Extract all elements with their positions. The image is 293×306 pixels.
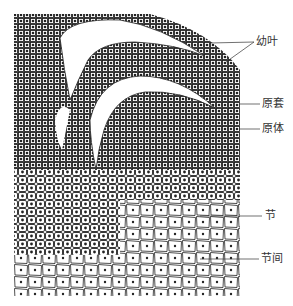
label-node: 节 — [265, 210, 276, 222]
label-young-leaf: 幼叶 — [256, 36, 278, 48]
label-tunica: 原套 — [262, 98, 284, 110]
shoot-apex-diagram — [0, 0, 293, 306]
label-corpus: 原体 — [262, 123, 284, 135]
label-internode: 节间 — [261, 253, 283, 265]
